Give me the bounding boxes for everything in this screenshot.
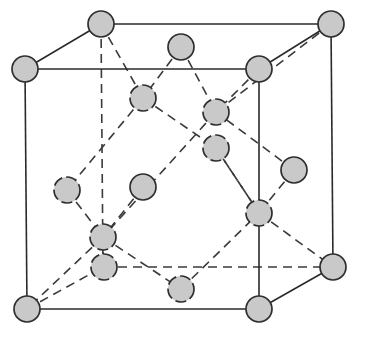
dashed-bond-line xyxy=(181,213,259,289)
dashed-bond-line xyxy=(216,24,331,112)
dashed-bond-line xyxy=(216,112,294,170)
atom-corner-front-top-right xyxy=(246,56,272,82)
atom-corner-back-bottom-right xyxy=(320,254,346,280)
atom-interior-b xyxy=(203,99,229,125)
atom-face-top xyxy=(168,34,194,60)
atom-corner-back-top-right xyxy=(318,11,344,37)
atom-interior-d xyxy=(246,200,272,226)
crystal-lattice-diagram xyxy=(0,0,366,341)
atom-face-right xyxy=(281,157,307,183)
atom-face-bottom xyxy=(168,276,194,302)
atom-corner-front-top-left xyxy=(12,56,38,82)
atom-corner-front-bottom-right xyxy=(246,296,272,322)
cube-edge-line xyxy=(331,24,333,267)
atom-interior-a xyxy=(130,85,156,111)
atom-face-back-bottom xyxy=(91,254,117,280)
atom-face-front xyxy=(130,174,156,200)
dashed-bond-line xyxy=(67,98,143,190)
cube-edge-line xyxy=(25,69,27,309)
unit-cell-drawing xyxy=(0,0,366,341)
atom-interior-e xyxy=(90,224,116,250)
atom-interior-c xyxy=(203,135,229,161)
atom-corner-front-bottom-left xyxy=(14,296,40,322)
atoms xyxy=(12,11,346,322)
atom-corner-back-top-left xyxy=(88,11,114,37)
atom-face-left xyxy=(54,177,80,203)
dashed-bond-line xyxy=(103,112,216,237)
